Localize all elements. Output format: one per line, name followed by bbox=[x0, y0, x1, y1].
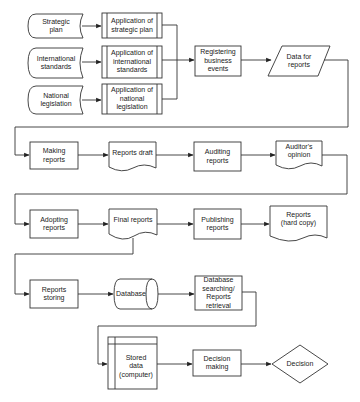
node-app-international-standards: Application of international standards bbox=[107, 46, 157, 78]
node-making-reports: Making reports bbox=[30, 142, 78, 169]
node-reports-storing: Reports storing bbox=[30, 280, 78, 308]
node-stored-data-computer: Stored data (computer) bbox=[115, 344, 157, 389]
node-adopting-reports: Adopting reports bbox=[30, 210, 78, 238]
node-reports-hard-copy: Reports (hard copy) bbox=[270, 206, 327, 232]
node-reports-draft: Reports draft bbox=[109, 142, 156, 164]
node-national-legislation: National legislation bbox=[30, 86, 82, 114]
node-strategic-plan: Strategic plan bbox=[30, 14, 82, 38]
node-auditing-reports: Auditing reports bbox=[194, 142, 241, 171]
node-data-for-reports: Data for reports bbox=[275, 46, 323, 76]
node-publishing-reports: Publishing reports bbox=[194, 209, 241, 239]
node-database: Database bbox=[114, 279, 148, 309]
node-international-standards: International standards bbox=[30, 48, 82, 78]
node-app-strategic-plan: Application of strategic plan bbox=[107, 13, 157, 38]
node-decision-making: Decision making bbox=[193, 350, 241, 376]
node-app-national-legislation: Application of national legislation bbox=[107, 84, 157, 114]
node-final-reports: Final reports bbox=[109, 209, 157, 231]
node-database-searching: Database searching/ Reports retrieval bbox=[195, 276, 242, 310]
node-decision: Decision bbox=[272, 345, 328, 383]
node-registering-business-events: Registering business events bbox=[195, 46, 241, 76]
node-auditors-opinion: Auditor's opinion bbox=[276, 141, 322, 161]
